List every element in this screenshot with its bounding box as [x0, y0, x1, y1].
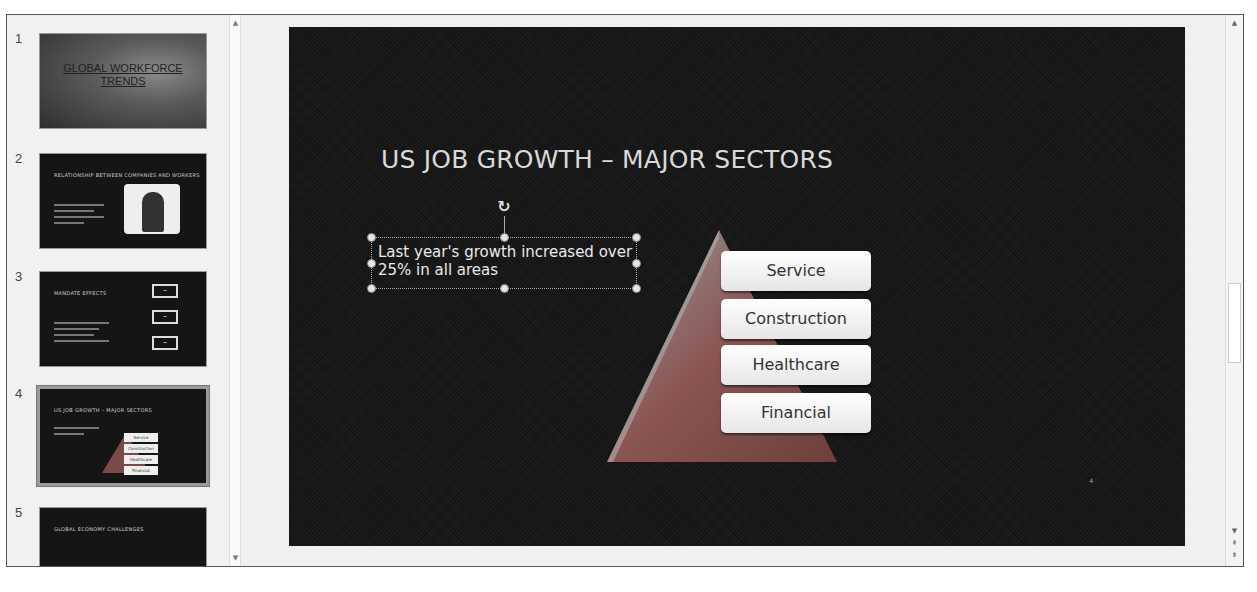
thumbnail-slide-5[interactable]: 5 GLOBAL ECONOMY CHALLENGES	[7, 499, 229, 566]
thumbnail-slide-1[interactable]: 1 GLOBAL WORKFORCE TRENDS	[7, 25, 229, 135]
slide-editing-area: US JOB GROWTH – MAJOR SECTORS ↻ Last yea…	[242, 15, 1225, 566]
thumbnail-number: 2	[15, 151, 22, 166]
slide-canvas[interactable]: US JOB GROWTH – MAJOR SECTORS ↻ Last yea…	[289, 27, 1185, 546]
slide-title[interactable]: US JOB GROWTH – MAJOR SECTORS	[381, 145, 833, 174]
scroll-down-icon[interactable]: ▼	[230, 552, 241, 564]
sector-box-service[interactable]: Service	[721, 251, 871, 291]
resize-handle-s[interactable]	[500, 284, 509, 293]
next-slide-icon[interactable]: ⇟	[1228, 549, 1241, 561]
bracket-icon: –	[152, 284, 178, 298]
rotate-handle-icon[interactable]: ↻	[495, 198, 513, 216]
previous-slide-icon[interactable]: ⇞	[1228, 537, 1241, 549]
resize-handle-sw[interactable]	[367, 284, 376, 293]
slide-number: 4	[1089, 477, 1093, 484]
thumbnail-slide-3[interactable]: 3 MANDATE EFFECTS – – –	[7, 263, 229, 373]
sector-box-construction[interactable]: Construction	[721, 299, 871, 339]
sector-box-healthcare[interactable]: Healthcare	[721, 345, 871, 385]
scroll-up-icon[interactable]: ▲	[1228, 17, 1241, 29]
thumbnail-image: GLOBAL ECONOMY CHALLENGES	[39, 507, 207, 566]
thumbnail-scrollbar[interactable]: ▲ ▼	[229, 15, 241, 566]
scroll-down-icon[interactable]: ▼	[1228, 525, 1241, 537]
bracket-icon: –	[152, 336, 178, 350]
thumbnail-slide-4[interactable]: 4 US JOB GROWTH – MAJOR SECTORS Service …	[7, 380, 229, 490]
thumbnail-image: GLOBAL WORKFORCE TRENDS	[39, 33, 207, 129]
resize-handle-n[interactable]	[500, 233, 509, 242]
thumbnail-slide-2[interactable]: 2 RELATIONSHIP BETWEEN COMPANIES AND WOR…	[7, 145, 229, 255]
slide-thumbnail-pane: 1 GLOBAL WORKFORCE TRENDS 2 RELATIONSHIP…	[7, 15, 229, 566]
textbox-content[interactable]: Last year's growth increased over 25% in…	[378, 243, 638, 279]
sector-box-financial[interactable]: Financial	[721, 393, 871, 433]
photo-placeholder	[124, 184, 180, 234]
thumbnail-number: 4	[15, 386, 22, 401]
thumbnail-image: US JOB GROWTH – MAJOR SECTORS Service Co…	[37, 386, 209, 486]
main-scrollbar[interactable]: ▲ ▼ ⇞ ⇟	[1225, 15, 1243, 566]
thumbnail-title: GLOBAL WORKFORCE TRENDS	[40, 62, 206, 88]
resize-handle-nw[interactable]	[367, 233, 376, 242]
powerpoint-window: 1 GLOBAL WORKFORCE TRENDS 2 RELATIONSHIP…	[6, 14, 1244, 567]
thumbnail-number: 5	[15, 505, 22, 520]
bracket-icon: –	[152, 310, 178, 324]
thumbnail-number: 1	[15, 31, 22, 46]
scroll-up-icon[interactable]: ▲	[230, 17, 241, 29]
thumbnail-title: MANDATE EFFECTS	[54, 290, 106, 296]
thumbnail-number: 3	[15, 269, 22, 284]
thumbnail-image: MANDATE EFFECTS – – –	[39, 271, 207, 367]
selected-textbox[interactable]: ↻ Last year's growth increased over 25% …	[371, 237, 637, 289]
resize-handle-w[interactable]	[367, 259, 376, 268]
thumbnail-title: GLOBAL ECONOMY CHALLENGES	[54, 526, 144, 532]
thumbnail-title: RELATIONSHIP BETWEEN COMPANIES AND WORKE…	[54, 172, 200, 178]
thumbnail-image: RELATIONSHIP BETWEEN COMPANIES AND WORKE…	[39, 153, 207, 249]
scrollbar-thumb[interactable]	[1228, 283, 1241, 363]
thumbnail-title: US JOB GROWTH – MAJOR SECTORS	[54, 407, 152, 413]
